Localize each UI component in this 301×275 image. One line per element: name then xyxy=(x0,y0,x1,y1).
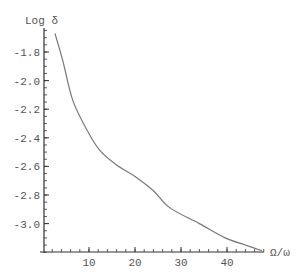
x-tick-label: 30 xyxy=(174,257,187,269)
y-tick-label: -2.0 xyxy=(14,76,40,88)
x-tick-label: 10 xyxy=(82,257,95,269)
x-tick-label: 20 xyxy=(128,257,141,269)
x-tick-label: 40 xyxy=(220,257,233,269)
x-axis-title: Ω/ω xyxy=(270,247,290,259)
y-tick-label: -2.8 xyxy=(14,190,40,202)
data-curve xyxy=(55,33,262,250)
y-tick-label: -3.0 xyxy=(14,219,40,231)
y-axis-title: Log δ xyxy=(25,15,58,27)
y-tick-label: -2.6 xyxy=(14,161,40,173)
line-chart: -1.8-2.0-2.2-2.4-2.6-2.8-3.0 10203040 Lo… xyxy=(0,0,301,275)
y-tick-label: -2.2 xyxy=(14,104,40,116)
y-tick-label: -1.8 xyxy=(14,47,40,59)
y-tick-label: -2.4 xyxy=(14,133,41,145)
x-axis-ticks: 10203040 xyxy=(52,247,264,269)
